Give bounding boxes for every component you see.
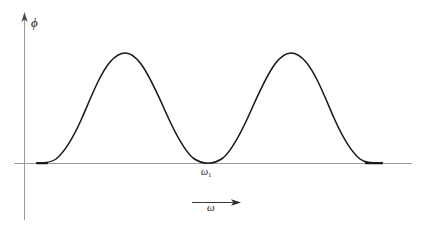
phi-curve <box>38 53 382 163</box>
x-axis-label: ω <box>207 202 215 213</box>
omega-1-symbol: ω <box>201 166 208 177</box>
omega-1-label: ω1 <box>201 167 211 179</box>
plot-svg <box>0 0 425 231</box>
figure-canvas: ϕ ω1 ω <box>0 0 425 231</box>
omega-1-subscript: 1 <box>208 171 211 178</box>
y-axis-label: ϕ <box>31 16 38 29</box>
